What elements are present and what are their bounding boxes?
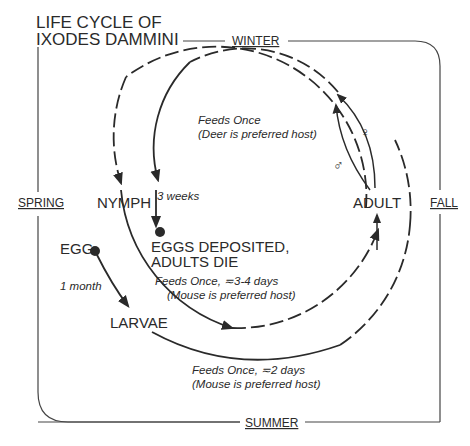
male-symbol-icon: ♂: [333, 157, 344, 173]
note-adult-host: (Deer is preferred host): [198, 128, 317, 140]
stage-nymph: NYMPH: [97, 194, 151, 211]
note-nymph-host: (Mouse is preferred host): [167, 289, 296, 301]
note-nymph-feeds: Feeds Once, ≂3-4 days: [155, 275, 278, 287]
stage-larvae: LARVAE: [110, 314, 168, 331]
note-one-month: 1 month: [60, 280, 102, 292]
note-three-weeks: 3 weeks: [157, 190, 199, 202]
eggs-deposited-dot: [155, 227, 165, 237]
note-larvae-feeds: Feeds Once, ≂2 days: [192, 364, 305, 376]
season-fall: FALL: [430, 196, 458, 210]
title-line2: IXODES DAMMINI: [36, 30, 179, 49]
stage-egg: EGG: [60, 240, 93, 257]
female-symbol-icon: ♀: [360, 124, 371, 140]
note-adult-feeds: Feeds Once: [198, 114, 261, 126]
stage-adult: ADULT: [353, 194, 401, 211]
season-summer: SUMMER: [245, 416, 299, 430]
life-cycle-diagram: LIFE CYCLE OF IXODES DAMMINI WINTER FALL…: [0, 0, 470, 446]
season-spring: SPRING: [18, 196, 64, 210]
season-winter: WINTER: [232, 34, 280, 48]
note-larvae-host: (Mouse is preferred host): [192, 378, 321, 390]
adults-die-label: ADULTS DIE: [151, 253, 238, 270]
